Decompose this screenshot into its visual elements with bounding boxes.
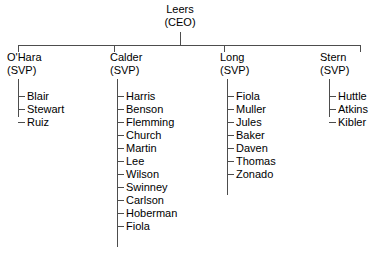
- calder-tick-0: [117, 96, 124, 97]
- report-item: Daven: [236, 142, 268, 155]
- report-item: Jules: [236, 116, 262, 129]
- ceo-drop-line: [180, 32, 181, 45]
- report-item: Blair: [27, 90, 49, 103]
- report-item: Swinney: [126, 181, 168, 194]
- ohara-tick-2: [18, 122, 25, 123]
- calder-tick-10: [117, 226, 124, 227]
- ohara-tick-1: [18, 109, 25, 110]
- report-item: Ruiz: [27, 116, 49, 129]
- division-bus-line: [18, 45, 361, 46]
- long-tick-6: [227, 174, 234, 175]
- report-item: Wilson: [126, 168, 159, 181]
- long-tick-4: [227, 148, 234, 149]
- report-item: Zonado: [236, 168, 273, 181]
- report-item: Stewart: [27, 103, 64, 116]
- calder-tick-9: [117, 213, 124, 214]
- stern-tick-0: [329, 96, 336, 97]
- ceo-node: Leers (CEO): [150, 3, 210, 29]
- long-tick-0: [227, 96, 234, 97]
- division-name-ohara: O'Hara: [7, 51, 42, 64]
- calder-tick-5: [117, 161, 124, 162]
- report-item: Carlson: [126, 194, 164, 207]
- report-item: Lee: [126, 155, 144, 168]
- calder-tick-7: [117, 187, 124, 188]
- calder-tick-4: [117, 148, 124, 149]
- report-item: Kibler: [338, 116, 366, 129]
- stern-tick-1: [329, 109, 336, 110]
- stern-drop-line: [360, 45, 361, 52]
- org-chart: Leers (CEO) O'Hara (SVP) Blair Stewart R…: [0, 0, 379, 264]
- long-tick-3: [227, 135, 234, 136]
- division-node-calder: Calder (SVP): [110, 51, 142, 77]
- calder-spine: [117, 79, 118, 247]
- ohara-tick-0: [18, 96, 25, 97]
- division-title-long: (SVP): [220, 64, 249, 77]
- stern-tick-2: [329, 122, 336, 123]
- report-item: Harris: [126, 90, 155, 103]
- report-item: Huttle: [338, 90, 367, 103]
- ceo-name: Leers: [150, 3, 210, 16]
- division-node-ohara: O'Hara (SVP): [7, 51, 42, 77]
- long-tick-5: [227, 161, 234, 162]
- division-name-long: Long: [220, 51, 249, 64]
- division-title-ohara: (SVP): [7, 64, 42, 77]
- calder-tick-1: [117, 109, 124, 110]
- report-item: Fiola: [236, 90, 260, 103]
- ceo-title: (CEO): [150, 16, 210, 29]
- division-title-stern: (SVP): [320, 64, 349, 77]
- report-item: Flemming: [126, 116, 174, 129]
- division-name-calder: Calder: [110, 51, 142, 64]
- ohara-spine: [18, 79, 19, 117]
- report-item: Martin: [126, 142, 157, 155]
- report-item: Baker: [236, 129, 265, 142]
- report-item: Muller: [236, 103, 266, 116]
- division-name-stern: Stern: [320, 51, 349, 64]
- long-tick-2: [227, 122, 234, 123]
- report-item: Fiola: [126, 220, 150, 233]
- report-item: Church: [126, 129, 161, 142]
- division-node-long: Long (SVP): [220, 51, 249, 77]
- stern-spine: [329, 79, 330, 117]
- division-node-stern: Stern (SVP): [320, 51, 349, 77]
- report-item: Atkins: [338, 103, 368, 116]
- calder-tick-8: [117, 200, 124, 201]
- report-item: Benson: [126, 103, 163, 116]
- long-tick-1: [227, 109, 234, 110]
- calder-tick-3: [117, 135, 124, 136]
- division-title-calder: (SVP): [110, 64, 142, 77]
- calder-tick-2: [117, 122, 124, 123]
- report-item: Thomas: [236, 155, 276, 168]
- calder-tick-6: [117, 174, 124, 175]
- report-item: Hoberman: [126, 207, 177, 220]
